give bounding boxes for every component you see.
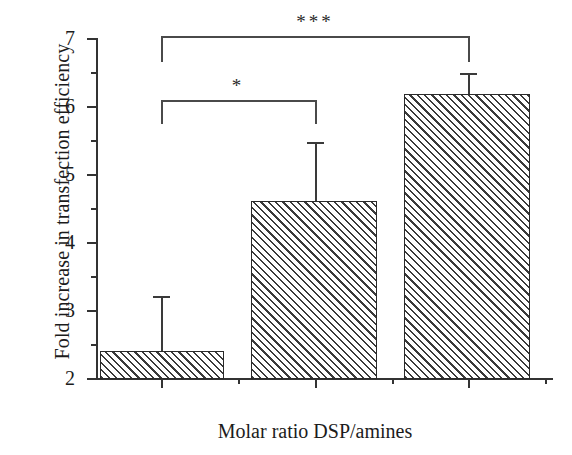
y-tick-label-7: 7	[65, 28, 75, 48]
x-axis-label: Molar ratio DSP/amines	[85, 420, 545, 443]
bar-0.15	[404, 94, 530, 379]
significance-bracket-left-arm-3star	[161, 36, 163, 62]
significance-bracket-right-arm-1star	[315, 100, 317, 124]
significance-bracket-top-line-3star	[161, 36, 470, 38]
y-minor-tick-2p5	[91, 344, 96, 346]
error-bar-cap-0.05	[307, 142, 324, 144]
significance-bracket-right-arm-3star	[468, 36, 470, 62]
x-tick-1: 0.05	[315, 379, 317, 388]
y-minor-tick-6p5	[91, 72, 96, 74]
y-minor-tick-5p5	[91, 140, 96, 142]
significance-bracket-left-arm-1star	[161, 100, 163, 124]
y-tick-6: 6	[87, 106, 96, 108]
significance-label-1star: *	[232, 76, 245, 95]
significance-bracket-top-line-1star	[161, 100, 316, 102]
y-tick-label-4: 4	[65, 232, 75, 252]
y-tick-label-6: 6	[65, 96, 75, 116]
y-tick-label-3: 3	[65, 300, 75, 320]
y-minor-tick-4p5	[91, 208, 96, 210]
x-minor-tick-0	[238, 379, 240, 384]
x-tick-2: 0.15	[468, 379, 470, 388]
y-tick-2: 2	[87, 378, 96, 380]
bar-chart-figure: Fold increase in transfection efficiency…	[0, 0, 572, 455]
error-bar-stem-0.05	[315, 142, 317, 201]
x-tick-0: 0.00	[161, 379, 163, 388]
x-minor-tick-2	[545, 379, 547, 384]
y-tick-7: 7	[87, 38, 96, 40]
y-tick-5: 5	[87, 174, 96, 176]
y-tick-label-2: 2	[65, 368, 75, 388]
y-axis-line	[96, 38, 98, 379]
bar-0.00	[100, 351, 224, 379]
y-tick-label-5: 5	[65, 164, 75, 184]
x-minor-tick-1	[392, 379, 394, 384]
bar-0.05	[251, 201, 377, 379]
y-minor-tick-3p5	[91, 276, 96, 278]
error-bar-cap-0.15	[460, 73, 477, 75]
y-tick-3: 3	[87, 310, 96, 312]
error-bar-stem-0.00	[161, 296, 163, 351]
y-tick-4: 4	[87, 242, 96, 244]
plot-area: 7 6 5 4 3 2 0.00 0.05 0.15	[96, 38, 552, 378]
error-bar-stem-0.15	[468, 73, 470, 94]
y-axis-label: Fold increase in transfection efficiency	[51, 22, 74, 382]
significance-label-3star: ***	[296, 12, 334, 31]
error-bar-cap-0.00	[153, 296, 170, 298]
